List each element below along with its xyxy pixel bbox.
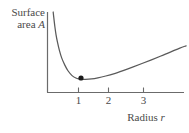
x-tick-label-1: 1 bbox=[71, 94, 87, 106]
x-axis-variable-symbol: r bbox=[161, 111, 165, 123]
y-axis-label-line2: area A bbox=[0, 19, 45, 31]
surface-area-curve bbox=[53, 12, 186, 79]
y-axis-variable-symbol: A bbox=[38, 18, 45, 30]
x-axis-label: Radius r bbox=[104, 112, 188, 124]
x-tick-label-3: 3 bbox=[136, 94, 152, 106]
surface-area-vs-radius-figure: Surface area A Radius r 1 2 3 bbox=[0, 0, 189, 133]
x-axis-label-text: Radius bbox=[127, 111, 160, 123]
y-axis-label-text: area bbox=[17, 18, 38, 30]
y-axis-label: Surface area A bbox=[0, 7, 45, 30]
minimum-point-marker bbox=[78, 75, 83, 80]
x-tick-label-2: 2 bbox=[101, 94, 117, 106]
